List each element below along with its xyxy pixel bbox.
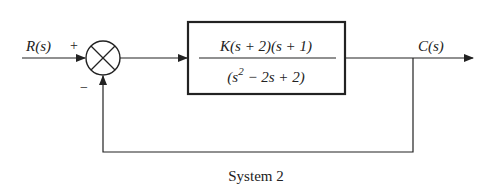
tf-numerator: K(s + 2)(s + 1) <box>219 38 312 55</box>
plus-sign: + <box>70 38 78 53</box>
output-label: C(s) <box>418 38 444 55</box>
summing-junction <box>86 41 120 75</box>
input-label: R(s) <box>25 38 51 55</box>
minus-sign: − <box>80 80 88 95</box>
diagram-caption: System 2 <box>228 168 283 184</box>
block-diagram: R(s) + − K(s + 2)(s + 1) (s2 − 2s + 2) C… <box>0 0 490 187</box>
